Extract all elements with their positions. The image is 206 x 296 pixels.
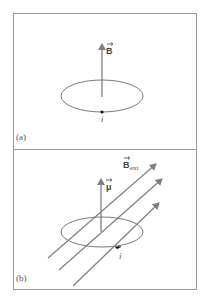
- svg-text:ext: ext: [130, 164, 139, 172]
- panel-a: B i (a): [16, 43, 143, 143]
- magnetic-dipole-figure: B i (a) μ B ext i (b): [0, 0, 206, 296]
- external-field-line-2: [59, 179, 162, 270]
- svg-text:μ: μ: [106, 182, 112, 192]
- external-field-line-3: [73, 203, 159, 286]
- panel-b: μ B ext i (b): [16, 157, 162, 287]
- mu-vector-label: μ: [106, 179, 112, 193]
- b-vector-label: B: [106, 43, 113, 57]
- panel-a-label: (a): [16, 132, 26, 142]
- figure-frame: [14, 14, 197, 290]
- panel-b-label: (b): [16, 273, 27, 283]
- external-field-line-1: [48, 164, 156, 258]
- svg-text:B: B: [106, 46, 113, 56]
- current-label: i: [119, 251, 122, 261]
- current-direction-arrow: [115, 247, 121, 250]
- current-label: i: [101, 114, 104, 124]
- svg-text:B: B: [123, 160, 130, 170]
- b-ext-vector-label: B ext: [123, 157, 139, 173]
